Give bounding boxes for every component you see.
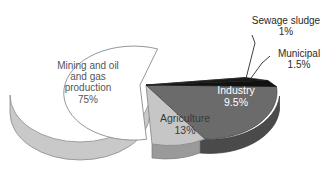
slice-label-mining-line2: and gas: [70, 71, 106, 82]
slice-label-industry: Industry 9.5%: [200, 85, 272, 109]
slice-value-agriculture: 13%: [146, 125, 224, 137]
slice-value-industry: 9.5%: [200, 97, 272, 109]
slice-value-sewage-sludge: 1%: [243, 26, 329, 37]
slice-label-mining-line1: Mining and oil: [57, 60, 119, 71]
slice-value-mining: 75%: [42, 94, 134, 105]
slice-label-industry-name: Industry: [217, 84, 254, 96]
slice-label-mining-line3: production: [65, 82, 112, 93]
slice-label-agriculture: Agriculture 13%: [146, 113, 224, 137]
leader-lines: [246, 35, 270, 80]
slice-label-agriculture-name: Agriculture: [160, 112, 210, 124]
leader-line-municipal: [250, 56, 270, 80]
slice-label-mining: Mining and oil and gas production 75%: [42, 60, 134, 105]
leader-line-sewage-sludge: [246, 35, 255, 79]
slice-label-sewage-sludge: Sewage sludge 1%: [243, 15, 329, 37]
slice-label-municipal-name: Municipal: [278, 48, 320, 59]
pie-chart: Mining and oil and gas production 75% Ag…: [0, 0, 331, 186]
slice-label-municipal: Municipal 1.5%: [269, 48, 329, 70]
slice-label-sewage-sludge-name: Sewage sludge: [252, 15, 320, 26]
slice-value-municipal: 1.5%: [269, 59, 329, 70]
